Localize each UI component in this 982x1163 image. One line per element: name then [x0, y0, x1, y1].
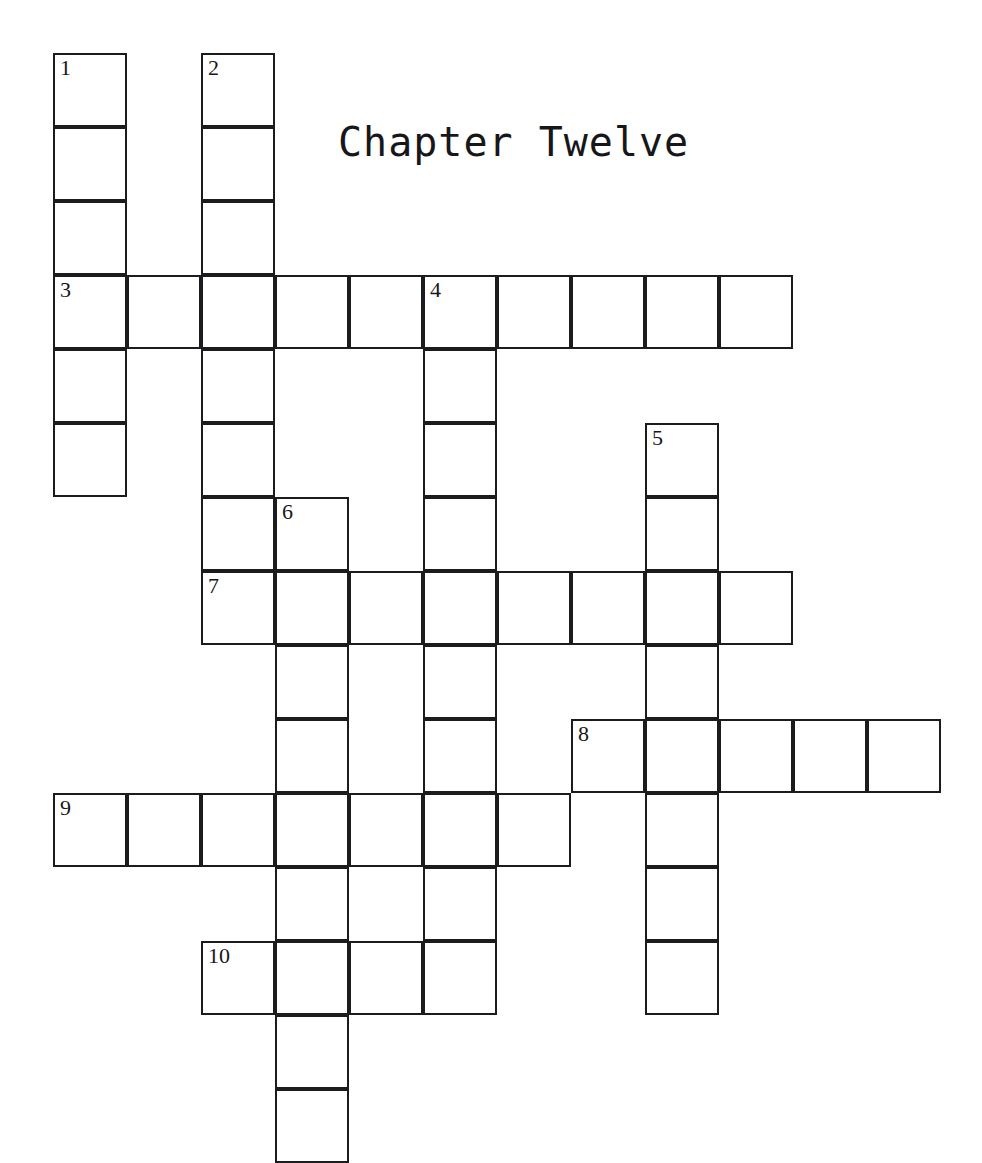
grid-cell[interactable]: 7: [201, 571, 275, 645]
grid-cell[interactable]: [53, 201, 127, 275]
grid-cell[interactable]: [645, 497, 719, 571]
cell-number-10: 10: [208, 944, 230, 967]
grid-cell[interactable]: [645, 275, 719, 349]
grid-cell[interactable]: 6: [275, 497, 349, 571]
grid-cell[interactable]: [719, 571, 793, 645]
grid-cell[interactable]: [571, 571, 645, 645]
grid-cell[interactable]: [497, 793, 571, 867]
cell-number-7: 7: [208, 574, 219, 597]
grid-cell[interactable]: 3: [53, 275, 127, 349]
cell-number-8: 8: [578, 722, 589, 745]
cell-number-2: 2: [208, 56, 219, 79]
grid-cell[interactable]: [201, 201, 275, 275]
grid-cell[interactable]: 2: [201, 53, 275, 127]
grid-cell[interactable]: [201, 127, 275, 201]
cell-number-5: 5: [652, 426, 663, 449]
grid-cell[interactable]: [497, 571, 571, 645]
grid-cell[interactable]: [719, 275, 793, 349]
grid-cell[interactable]: [127, 793, 201, 867]
grid-cell[interactable]: [645, 867, 719, 941]
grid-cell[interactable]: [645, 571, 719, 645]
grid-cell[interactable]: 10: [201, 941, 275, 1015]
grid-cell[interactable]: [423, 719, 497, 793]
grid-cell[interactable]: [793, 719, 867, 793]
grid-cell[interactable]: 8: [571, 719, 645, 793]
grid-cell[interactable]: [645, 793, 719, 867]
grid-cell[interactable]: [275, 1015, 349, 1089]
grid-cell[interactable]: [571, 275, 645, 349]
grid-cell[interactable]: [423, 793, 497, 867]
grid-cell[interactable]: [719, 719, 793, 793]
grid-cell[interactable]: [275, 1089, 349, 1163]
grid-cell[interactable]: [423, 941, 497, 1015]
grid-cell[interactable]: [349, 793, 423, 867]
grid-cell[interactable]: [275, 719, 349, 793]
grid-cell[interactable]: [201, 423, 275, 497]
grid-cell[interactable]: [423, 571, 497, 645]
grid-cell[interactable]: [275, 793, 349, 867]
grid-cell[interactable]: [275, 275, 349, 349]
grid-cell[interactable]: [53, 127, 127, 201]
grid-cell[interactable]: [645, 941, 719, 1015]
grid-cell[interactable]: [275, 645, 349, 719]
grid-cell[interactable]: [423, 497, 497, 571]
grid-cell[interactable]: [349, 275, 423, 349]
grid-cell[interactable]: [867, 719, 941, 793]
grid-cell[interactable]: [349, 571, 423, 645]
grid-cell[interactable]: [645, 645, 719, 719]
grid-cell[interactable]: [53, 349, 127, 423]
grid-cell[interactable]: [127, 275, 201, 349]
grid-cell[interactable]: [645, 719, 719, 793]
grid-cell[interactable]: 5: [645, 423, 719, 497]
grid-cell[interactable]: [53, 423, 127, 497]
grid-cell[interactable]: [423, 423, 497, 497]
grid-cell[interactable]: [423, 867, 497, 941]
cell-number-4: 4: [430, 278, 441, 301]
grid-cell[interactable]: [275, 941, 349, 1015]
grid-cell[interactable]: [275, 867, 349, 941]
grid-cell[interactable]: [423, 645, 497, 719]
grid-cell[interactable]: [423, 349, 497, 423]
cell-number-6: 6: [282, 500, 293, 523]
grid-cell[interactable]: [201, 497, 275, 571]
grid-cell[interactable]: 9: [53, 793, 127, 867]
cell-number-3: 3: [60, 278, 71, 301]
cell-number-9: 9: [60, 796, 71, 819]
grid-cell[interactable]: [497, 275, 571, 349]
cell-number-1: 1: [60, 56, 71, 79]
grid-cell[interactable]: [201, 275, 275, 349]
grid-cell[interactable]: 1: [53, 53, 127, 127]
grid-cell[interactable]: [201, 793, 275, 867]
grid-cell[interactable]: [275, 571, 349, 645]
grid-cell[interactable]: 4: [423, 275, 497, 349]
grid-cell[interactable]: [201, 349, 275, 423]
grid-cell[interactable]: [349, 941, 423, 1015]
